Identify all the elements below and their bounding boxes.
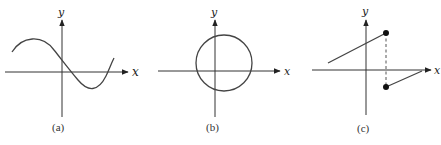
figure-svg: x y (a) x y (b) x y (c) (0, 0, 441, 145)
function-curve (12, 39, 114, 89)
x-axis-label: x (434, 64, 441, 77)
y-axis-label: y (210, 6, 218, 19)
figure-canvas: x y (a) x y (b) x y (c) (0, 0, 441, 145)
panel-caption: (c) (357, 122, 370, 135)
panel-caption: (a) (52, 121, 65, 134)
endpoint-dot-lower (383, 84, 389, 90)
panel-c: x y (c) (312, 5, 441, 135)
panel-caption: (b) (206, 121, 219, 134)
circle-curve (196, 35, 252, 91)
endpoint-dot-upper (383, 30, 389, 36)
panel-a: x y (a) (5, 6, 139, 134)
lower-segment (386, 71, 422, 87)
y-axis-label: y (361, 5, 369, 18)
upper-segment (328, 33, 386, 63)
y-axis-label: y (57, 6, 65, 19)
x-axis-label: x (284, 65, 291, 78)
panel-b: x y (b) (158, 6, 291, 134)
x-axis-label: x (132, 65, 139, 79)
